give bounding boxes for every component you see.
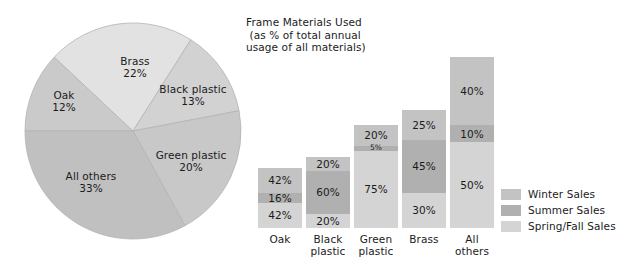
- bar-segment-value: 40%: [460, 86, 484, 97]
- legend-swatch-icon: [501, 205, 521, 216]
- bar-category-line: All: [442, 233, 502, 245]
- bar-segment-spring[interactable]: 42%: [258, 203, 302, 228]
- stacked-bar-chart: 42%16%42%Oak20%60%20%Blackplastic20%5%75…: [250, 46, 495, 273]
- bar-segment-value: 20%: [364, 130, 388, 141]
- pie-label-oak: Oak 12%: [36, 89, 92, 113]
- bar-segment-value: 20%: [316, 159, 340, 170]
- pie-label-value: 33%: [53, 182, 129, 194]
- pie-label-name: Brass: [100, 55, 170, 67]
- pie-label-brass: Brass 22%: [100, 55, 170, 79]
- legend-swatch-icon: [501, 221, 521, 232]
- legend-item-summer[interactable]: Summer Sales: [501, 202, 616, 218]
- bar-segment-value: 25%: [412, 120, 436, 131]
- chart-canvas: Brass 22% Black plastic 13% Oak 12% Gree…: [0, 0, 626, 273]
- bar-segment-value: 60%: [316, 187, 340, 198]
- bar-category-line: others: [442, 245, 502, 257]
- pie-label-black-plastic: Black plastic 13%: [150, 83, 236, 107]
- bar-column-green-plastic[interactable]: 20%5%75%Greenplastic: [354, 125, 398, 228]
- pie-chart: Brass 22% Black plastic 13% Oak 12% Gree…: [22, 18, 246, 246]
- bar-segment-value: 30%: [412, 205, 436, 216]
- bar-segment-value: 20%: [316, 216, 340, 227]
- bar-segment-summer[interactable]: 60%: [306, 171, 350, 214]
- bar-segment-value: 45%: [412, 161, 436, 172]
- pie-label-green-plastic: Green plastic 20%: [146, 149, 236, 173]
- bar-segment-value: 75%: [364, 184, 388, 195]
- bar-segment-winter[interactable]: 40%: [450, 57, 494, 125]
- bar-segment-summer[interactable]: 10%: [450, 125, 494, 142]
- legend-label: Winter Sales: [528, 188, 595, 200]
- legend-label: Summer Sales: [528, 204, 605, 216]
- bar-column-all-others[interactable]: 40%10%50%Allothers: [450, 57, 494, 228]
- bar-category-label: Allothers: [442, 233, 502, 258]
- bar-stack: 20%5%75%Greenplastic: [354, 125, 398, 228]
- bar-segment-summer[interactable]: 45%: [402, 140, 446, 193]
- bar-segment-spring[interactable]: 30%: [402, 193, 446, 228]
- pie-label-all-others: All others 33%: [53, 170, 129, 194]
- bar-segment-value: 10%: [460, 129, 484, 140]
- pie-label-name: Oak: [36, 89, 92, 101]
- bar-category-line: plastic: [346, 245, 406, 257]
- bar-stack: 20%60%20%Blackplastic: [306, 157, 350, 228]
- pie-label-name: Green plastic: [146, 149, 236, 161]
- legend-label: Spring/Fall Sales: [528, 220, 616, 232]
- legend: Winter SalesSummer SalesSpring/Fall Sale…: [501, 186, 616, 234]
- legend-swatch-icon: [501, 189, 521, 200]
- bar-segment-value: 42%: [268, 210, 292, 221]
- bar-segment-value: 50%: [460, 180, 484, 191]
- pie-label-name: Black plastic: [150, 83, 236, 95]
- pie-label-value: 13%: [150, 95, 236, 107]
- bar-column-oak[interactable]: 42%16%42%Oak: [258, 168, 302, 228]
- bar-segment-winter[interactable]: 20%: [306, 157, 350, 171]
- bar-segment-winter[interactable]: 25%: [402, 110, 446, 140]
- bar-stack: 42%16%42%Oak: [258, 168, 302, 228]
- pie-label-value: 20%: [146, 161, 236, 173]
- bar-stack: 40%10%50%Allothers: [450, 57, 494, 228]
- pie-label-value: 22%: [100, 67, 170, 79]
- pie-label-value: 12%: [36, 101, 92, 113]
- legend-item-winter[interactable]: Winter Sales: [501, 186, 616, 202]
- pie-label-name: All others: [53, 170, 129, 182]
- bar-column-brass[interactable]: 25%45%30%Brass: [402, 110, 446, 228]
- bar-segment-spring[interactable]: 20%: [306, 214, 350, 228]
- bar-stack: 25%45%30%Brass: [402, 110, 446, 228]
- bar-segment-value: 42%: [268, 175, 292, 186]
- legend-item-spring[interactable]: Spring/Fall Sales: [501, 218, 616, 234]
- bar-segment-spring[interactable]: 50%: [450, 142, 494, 228]
- bar-column-black-plastic[interactable]: 20%60%20%Blackplastic: [306, 157, 350, 228]
- bar-segment-summer[interactable]: 16%: [258, 193, 302, 203]
- pie-svg: [22, 18, 246, 246]
- bar-segment-value: 16%: [268, 193, 292, 204]
- bar-segment-winter[interactable]: 42%: [258, 168, 302, 193]
- bar-segment-spring[interactable]: 75%: [354, 151, 398, 228]
